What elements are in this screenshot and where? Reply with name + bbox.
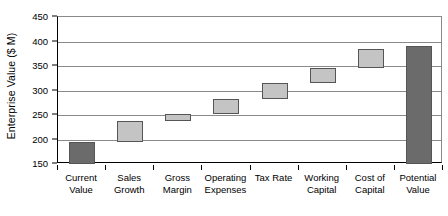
x-tick-label: Cost ofCapital [346,172,394,195]
bar-tax-rate [262,83,288,99]
bar-current-value [69,142,95,164]
y-tick-label: 300 [32,84,48,95]
y-tick-label: 200 [32,133,48,144]
x-tick-label-line1: Potential [399,172,436,183]
y-tick-mark [52,16,57,17]
x-axis-tick-labels: CurrentValueSalesGrowthGrossMarginOperat… [57,165,442,213]
y-axis-tick-labels: 150200250300350400450 [22,0,52,172]
bar-operating-expenses [213,99,239,114]
x-tick-label-line2: Value [394,184,442,196]
x-tick-label: PotentialValue [394,172,442,195]
x-tick-label-line2: Margin [153,184,201,196]
x-tick-label: WorkingCapital [298,172,346,195]
x-tick-mark [442,165,443,170]
gridline [58,140,441,141]
bar-cost-of-capital [358,49,384,69]
x-tick-mark [250,165,251,170]
waterfall-chart: Enterprise Value ($ M) 15020025030035040… [0,0,448,216]
x-tick-label-line2: Expenses [201,184,249,196]
x-tick-label-line2: Growth [105,184,153,196]
y-tick-mark [52,114,57,115]
y-tick-mark [52,89,57,90]
y-tick-mark [52,40,57,41]
x-tick-label-line1: Operating [205,172,247,183]
x-tick-mark [105,165,106,170]
plot-area [57,16,442,163]
y-tick-mark [52,138,57,139]
x-tick-mark [346,165,347,170]
y-axis-title-text: Enterprise Value ($ M) [5,33,17,139]
x-tick-label-line1: Current [65,172,97,183]
x-tick-label-line2: Capital [298,184,346,196]
y-axis-title: Enterprise Value ($ M) [0,0,22,172]
y-tick-label: 400 [32,35,48,46]
x-tick-label-line1: Sales [117,172,141,183]
x-tick-label-line1: Working [304,172,339,183]
bar-gross-margin [165,114,191,122]
gridline [58,115,441,116]
bar-potential-value [406,46,432,164]
x-tick-label: Tax Rate [250,172,298,184]
gridline [58,42,441,43]
y-tick-mark [52,65,57,66]
x-tick-label: SalesGrowth [105,172,153,195]
y-tick-label: 150 [32,158,48,169]
x-tick-label: GrossMargin [153,172,201,195]
x-tick-label-line2: Value [57,184,105,196]
x-tick-label-line2: Capital [346,184,394,196]
bar-sales-growth [117,121,143,142]
x-tick-label-line1: Tax Rate [255,172,293,183]
x-tick-mark [57,165,58,170]
x-tick-mark [298,165,299,170]
bar-working-capital [310,68,336,83]
x-tick-mark [394,165,395,170]
x-tick-label: CurrentValue [57,172,105,195]
x-tick-mark [201,165,202,170]
y-tick-label: 350 [32,60,48,71]
y-tick-label: 450 [32,11,48,22]
x-tick-label: OperatingExpenses [201,172,249,195]
x-tick-label-line1: Cost of [355,172,385,183]
y-tick-mark [52,163,57,164]
x-tick-mark [153,165,154,170]
gridline [58,91,441,92]
y-tick-label: 250 [32,109,48,120]
x-tick-label-line1: Gross [165,172,190,183]
